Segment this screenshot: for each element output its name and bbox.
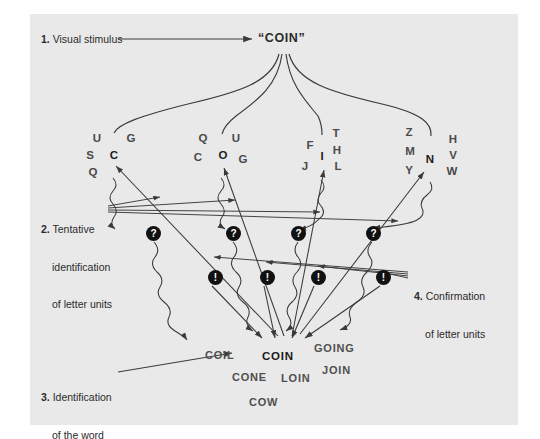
step-4-label-line1: Confirmation bbox=[426, 290, 486, 302]
step-2-label-line3: of letter units bbox=[41, 298, 112, 311]
letter-unit-h-cluster3: H bbox=[330, 144, 344, 156]
tentative-annotation-leaders bbox=[108, 197, 398, 221]
step-2-annotation: 2. Tentative identification of letter un… bbox=[41, 198, 112, 336]
step-3-annotation: 3. Identification of the word bbox=[41, 366, 112, 439]
tentative-node-4: ? bbox=[366, 226, 381, 241]
step-1-number: 1. bbox=[41, 33, 50, 45]
letter-unit-h-cluster4: H bbox=[446, 133, 460, 145]
step-4-label-line2: of letter units bbox=[414, 328, 485, 341]
letter-unit-m-cluster4: M bbox=[403, 145, 417, 157]
letter-unit-u-cluster1: U bbox=[90, 132, 104, 144]
letter-unit-y-cluster4: Y bbox=[402, 164, 416, 176]
stimulus-fanout-curves bbox=[114, 54, 431, 136]
step-3-label-line1: Identification bbox=[53, 391, 112, 403]
tentative-node-3: ? bbox=[291, 226, 306, 241]
word-candidate-coil: COIL bbox=[205, 349, 234, 361]
letter-unit-q-cluster2: Q bbox=[196, 132, 210, 144]
word-candidate-cone: CONE bbox=[232, 371, 267, 383]
step-3-label-line2: of the word bbox=[41, 429, 112, 439]
letter-unit-g-cluster1: G bbox=[124, 132, 138, 144]
letter-unit-n-cluster4: N bbox=[423, 153, 437, 165]
letter-unit-o-cluster2: O bbox=[216, 149, 230, 161]
letter-unit-u-cluster2: U bbox=[229, 132, 243, 144]
confirmation-node-2: ! bbox=[260, 270, 275, 285]
letter-unit-i-cluster3: I bbox=[315, 150, 329, 162]
letter-unit-j-cluster3: J bbox=[298, 160, 312, 172]
step-2-number: 2. bbox=[41, 223, 50, 235]
letter-unit-g-cluster2: G bbox=[236, 153, 250, 165]
step-2-label-line1: Tentative bbox=[53, 223, 95, 235]
step-1-annotation: 1. Visual stimulus bbox=[41, 33, 123, 46]
letter-unit-s-cluster1: S bbox=[83, 149, 97, 161]
word-candidate-going: GOING bbox=[314, 342, 355, 354]
figure-canvas: 1. Visual stimulus “COIN” 2. Tentative i… bbox=[0, 0, 540, 439]
step-4-number: 4. bbox=[414, 290, 423, 302]
letter-unit-t-cluster3: T bbox=[329, 127, 343, 139]
tentative-to-word-squiggles bbox=[152, 242, 372, 340]
word-candidate-loin: LOIN bbox=[281, 372, 310, 384]
tentative-node-1: ? bbox=[146, 226, 161, 241]
letter-to-tentative-squiggles bbox=[110, 178, 432, 230]
word-candidate-coin: COIN bbox=[262, 350, 294, 362]
confirmation-node-4: ! bbox=[376, 270, 391, 285]
letter-unit-q-cluster1: Q bbox=[86, 166, 100, 178]
step-1-label: Visual stimulus bbox=[53, 33, 123, 45]
confirmation-node-3: ! bbox=[311, 270, 326, 285]
step-3-number: 3. bbox=[41, 391, 50, 403]
tentative-node-2: ? bbox=[226, 226, 241, 241]
letter-unit-c-cluster1: C bbox=[107, 149, 121, 161]
visual-stimulus-text: “COIN” bbox=[258, 31, 305, 45]
word-candidate-join: JOIN bbox=[322, 364, 351, 376]
letter-unit-v-cluster4: V bbox=[446, 149, 460, 161]
letter-unit-c-cluster2: C bbox=[191, 151, 205, 163]
confirmation-node-1: ! bbox=[208, 270, 223, 285]
step-2-label-line2: identification bbox=[41, 261, 112, 274]
letter-unit-l-cluster3: L bbox=[331, 160, 345, 172]
step-4-annotation: 4. Confirmation of letter units bbox=[414, 265, 485, 365]
word-to-letter-feedback-lines bbox=[116, 166, 424, 336]
letter-unit-z-cluster4: Z bbox=[402, 126, 416, 138]
word-candidate-cow: COW bbox=[249, 396, 278, 408]
letter-unit-w-cluster4: W bbox=[445, 165, 459, 177]
